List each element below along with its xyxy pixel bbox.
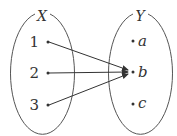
set-y-label: Y bbox=[135, 8, 146, 24]
element-b-label: b bbox=[138, 63, 148, 81]
element-2-label: 2 bbox=[29, 64, 39, 82]
mapping-diagram: X 1 2 3 Y a b c bbox=[0, 0, 177, 136]
element-c-dot bbox=[132, 103, 135, 106]
element-3-label: 3 bbox=[29, 96, 39, 114]
element-a-label: a bbox=[138, 32, 147, 50]
element-1-label: 1 bbox=[29, 33, 39, 51]
set-x: X 1 2 3 bbox=[10, 8, 74, 134]
element-c-label: c bbox=[138, 94, 147, 112]
mapping-arrows bbox=[49, 42, 128, 105]
arrow-3-to-b bbox=[49, 74, 128, 105]
set-x-ellipse bbox=[10, 14, 74, 134]
set-x-label: X bbox=[36, 8, 48, 24]
arrow-2-to-b bbox=[49, 72, 128, 73]
arrow-1-to-b bbox=[49, 42, 128, 70]
element-b-dot bbox=[132, 71, 135, 74]
element-a-dot bbox=[132, 40, 135, 43]
set-y: Y a b c bbox=[108, 8, 172, 134]
